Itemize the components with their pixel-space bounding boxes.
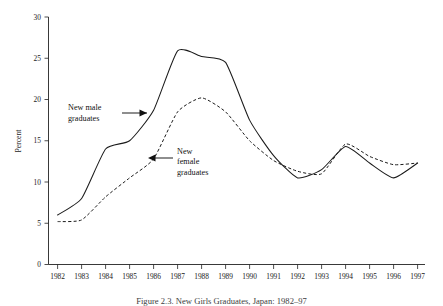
female-annotation-line1: New [177, 147, 193, 156]
y-tick-label-20: 20 [34, 95, 42, 104]
male-annotation-line2: graduates [68, 114, 99, 123]
x-tick-label-1987: 1987 [170, 272, 185, 281]
y-tick-label-5: 5 [37, 219, 41, 228]
y-axis-title: Percent [14, 129, 23, 153]
x-tick-label-1982: 1982 [50, 272, 65, 281]
x-tick-label-1995: 1995 [362, 272, 377, 281]
x-tick-label-1984: 1984 [98, 272, 113, 281]
female-annotation-line3: graduates [177, 168, 208, 177]
y-tick-label-10: 10 [34, 178, 42, 187]
male-annotation-arrowhead-icon [140, 110, 148, 117]
female-annotation-line2: female [177, 157, 200, 166]
series-line-new-female-graduates [58, 98, 418, 222]
x-tick-label-1991: 1991 [266, 272, 281, 281]
x-tick-label-1992: 1992 [290, 272, 305, 281]
female-annotation: New female graduates [148, 147, 208, 177]
x-ticks-group: 1982 1983 1984 1985 1986 1987 1988 1989 … [50, 265, 425, 282]
x-tick-label-1993: 1993 [314, 272, 329, 281]
axes-group [49, 17, 426, 265]
x-tick-label-1986: 1986 [146, 272, 161, 281]
x-tick-label-1989: 1989 [218, 272, 233, 281]
figure-caption: Figure 2.3. New Girls Graduates, Japan: … [0, 296, 443, 306]
x-tick-label-1996: 1996 [386, 272, 401, 281]
y-tick-label-25: 25 [34, 54, 42, 63]
y-tick-label-0: 0 [37, 260, 41, 269]
female-annotation-arrowhead-icon [148, 155, 156, 162]
y-tick-label-15: 15 [34, 136, 42, 145]
x-tick-label-1994: 1994 [338, 272, 353, 281]
x-tick-label-1983: 1983 [74, 272, 89, 281]
series-line-new-male-graduates [58, 49, 418, 215]
y-ticks-group: 0 5 10 15 20 25 30 [34, 13, 49, 269]
x-tick-label-1990: 1990 [242, 272, 257, 281]
male-annotation: New male graduates [68, 103, 147, 123]
male-annotation-line1: New male [68, 103, 102, 112]
x-tick-label-1988: 1988 [194, 272, 209, 281]
x-tick-label-1985: 1985 [122, 272, 137, 281]
x-tick-label-1997: 1997 [410, 272, 425, 281]
y-tick-label-30: 30 [34, 13, 42, 22]
